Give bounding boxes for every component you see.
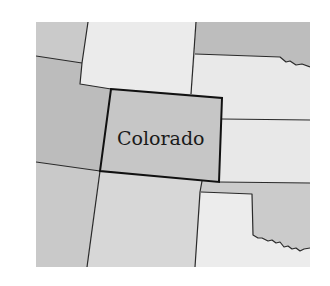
state-kansas (219, 119, 310, 183)
us-region-map: Colorado (0, 0, 330, 286)
state-new-mexico (87, 171, 202, 267)
colorado-label: Colorado (117, 127, 205, 149)
state-wyoming (80, 22, 196, 94)
map-container: Colorado (0, 0, 330, 286)
